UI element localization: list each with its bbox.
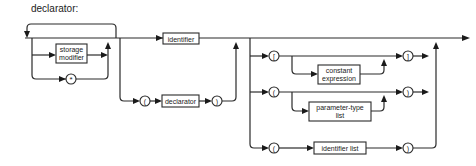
group-return bbox=[222, 46, 236, 101]
arrow-icon bbox=[311, 71, 318, 77]
rparen-ids-label: ) bbox=[407, 145, 409, 153]
constant-expression-label-2: expression bbox=[322, 75, 356, 83]
arrow-icon bbox=[302, 108, 309, 114]
parameter-type-list-label-1: parameter-type bbox=[316, 104, 364, 112]
optional-return bbox=[360, 63, 384, 74]
up-arrow-icon bbox=[105, 42, 111, 49]
storage-modifier-label-2: modifier bbox=[59, 54, 85, 61]
arrow-icon bbox=[59, 76, 66, 82]
optional-path bbox=[292, 56, 314, 74]
up-arrow-icon bbox=[433, 42, 439, 49]
declarator-label: declarator bbox=[165, 98, 197, 105]
suffix-return bbox=[413, 46, 436, 148]
arrow-icon bbox=[396, 53, 403, 59]
parameter-type-list-label-2: list bbox=[336, 112, 345, 119]
arrow-icon bbox=[307, 145, 314, 151]
identifier-label: identifier bbox=[168, 36, 195, 43]
loop-arrow-icon bbox=[24, 31, 30, 38]
arrow-icon bbox=[422, 89, 429, 95]
group-branch bbox=[120, 38, 137, 101]
arrow-icon bbox=[422, 53, 429, 59]
rparen-params-label: ) bbox=[407, 89, 409, 97]
constant-expression-label-1: constant bbox=[326, 67, 353, 74]
arrow-icon bbox=[262, 89, 269, 95]
up-arrow-icon bbox=[233, 42, 239, 49]
arrow-icon bbox=[156, 35, 163, 41]
rbracket-label: ] bbox=[407, 53, 409, 61]
arrow-icon bbox=[101, 52, 108, 58]
lbracket-label: [ bbox=[273, 53, 275, 61]
storage-modifier-label-1: storage bbox=[60, 46, 83, 54]
arrow-icon bbox=[49, 52, 56, 58]
arrow-icon bbox=[133, 98, 140, 104]
up-arrow-icon bbox=[381, 59, 387, 66]
arrow-icon bbox=[262, 145, 269, 151]
star-label: * bbox=[69, 75, 72, 84]
arrow-icon bbox=[262, 53, 269, 59]
arrow-icon bbox=[205, 98, 212, 104]
exit-arrow-icon bbox=[462, 35, 470, 41]
arrow-icon bbox=[396, 145, 403, 151]
arrow-icon bbox=[396, 89, 403, 95]
optional-path bbox=[292, 92, 305, 111]
arrow-icon bbox=[155, 98, 162, 104]
up-arrow-icon bbox=[381, 95, 387, 102]
identifier-list-label: identifier list bbox=[322, 145, 359, 152]
repeat-loop bbox=[27, 24, 116, 38]
rparen-label: ) bbox=[216, 98, 218, 106]
syntax-diagram: storage modifier * identifier ( declarat… bbox=[0, 0, 476, 166]
